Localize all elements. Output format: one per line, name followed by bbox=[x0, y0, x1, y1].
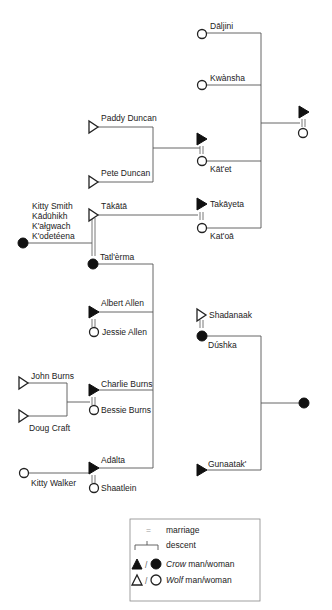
legend-marriage-label: marriage bbox=[166, 525, 200, 535]
person-katet-husband-triangle-icon[interactable] bbox=[197, 133, 207, 145]
label-kitty-smith-2: Kādūhikh bbox=[32, 211, 68, 221]
label-jessie: Jessie Allen bbox=[102, 327, 147, 337]
label-bessie: Bessie Burns bbox=[101, 405, 151, 415]
person-takayeta-triangle-icon[interactable] bbox=[197, 198, 207, 210]
person-adalta-triangle-icon[interactable] bbox=[89, 462, 99, 474]
label-pete: Pete Duncan bbox=[101, 168, 150, 178]
label-kitty-walker: Kitty Walker bbox=[31, 478, 76, 488]
label-takayeta: Takāyeta bbox=[210, 199, 244, 209]
person-tatlerma-circle-icon[interactable] bbox=[88, 259, 98, 269]
person-top-right-husband-triangle-icon[interactable] bbox=[299, 106, 309, 118]
label-katet: Kāt'et bbox=[210, 164, 232, 174]
label-paddy: Paddy Duncan bbox=[101, 113, 157, 123]
legend-marriage-symbol: = bbox=[146, 525, 151, 535]
person-shadanaak-triangle-icon[interactable] bbox=[197, 309, 206, 321]
label-adalta: Adālta bbox=[101, 455, 125, 465]
person-kitty-walker-circle-icon[interactable] bbox=[20, 469, 29, 478]
person-charlie-triangle-icon[interactable] bbox=[89, 384, 99, 396]
person-paddy-triangle-icon[interactable] bbox=[89, 121, 98, 133]
person-top-right-wife-circle-icon[interactable] bbox=[299, 129, 308, 138]
person-right-mother-circle-icon[interactable] bbox=[299, 398, 309, 408]
person-gunaatak-triangle-icon[interactable] bbox=[197, 464, 207, 476]
legend-descent-label: descent bbox=[166, 540, 196, 550]
legend: = marriage descent / Crow man/woman / Wo… bbox=[130, 519, 260, 601]
label-shadanaak: Shadanaak bbox=[209, 310, 253, 320]
label-kitty-smith-1: Kitty Smith bbox=[32, 201, 73, 211]
label-katoa: Kat'oā bbox=[210, 231, 234, 241]
label-gunaatak: Gunaatak' bbox=[208, 459, 247, 469]
person-daljini-circle-icon[interactable] bbox=[198, 30, 207, 39]
kinship-diagram: Dāljini Kwànsha Paddy Duncan Pete Duncan… bbox=[0, 0, 332, 610]
label-doug: Doug Craft bbox=[29, 423, 71, 433]
person-takata-triangle-icon[interactable] bbox=[89, 209, 98, 221]
person-katoa-circle-icon[interactable] bbox=[198, 224, 207, 233]
label-daljini: Dāljini bbox=[210, 21, 233, 31]
descent-lines bbox=[22, 33, 300, 473]
label-kitty-smith-3: K'ałgwach bbox=[32, 221, 71, 231]
label-dushka: Dúshka bbox=[208, 340, 237, 350]
person-albert-triangle-icon[interactable] bbox=[89, 306, 99, 318]
label-takata: Tākātā bbox=[101, 201, 127, 211]
person-kwansha-circle-icon[interactable] bbox=[198, 81, 207, 90]
person-pete-triangle-icon[interactable] bbox=[89, 176, 98, 188]
person-bessie-circle-icon[interactable] bbox=[90, 406, 99, 415]
label-john: John Burns bbox=[31, 371, 74, 381]
label-kwansha: Kwànsha bbox=[210, 73, 245, 83]
label-tatlerma: Tatl'èrma bbox=[100, 252, 134, 262]
label-shaatlein: Shaatlein bbox=[101, 483, 137, 493]
label-charlie: Charlie Burns bbox=[101, 379, 153, 389]
person-kitty-smith-circle-icon[interactable] bbox=[18, 238, 28, 248]
person-shaatlein-circle-icon[interactable] bbox=[90, 484, 99, 493]
person-dushka-circle-icon[interactable] bbox=[197, 331, 207, 341]
person-katet-circle-icon[interactable] bbox=[198, 157, 207, 166]
label-albert: Albert Allen bbox=[101, 298, 144, 308]
person-jessie-circle-icon[interactable] bbox=[90, 328, 99, 337]
person-john-triangle-icon[interactable] bbox=[19, 377, 28, 389]
person-doug-triangle-icon[interactable] bbox=[19, 410, 28, 422]
legend-crow-woman-icon bbox=[151, 559, 161, 569]
legend-wolf-label: Wolf man/woman bbox=[166, 575, 232, 585]
legend-wolf-woman-icon bbox=[151, 575, 161, 585]
label-kitty-smith-4: K'odetéena bbox=[32, 231, 75, 241]
legend-crow-label: Crow man/woman bbox=[166, 559, 235, 569]
